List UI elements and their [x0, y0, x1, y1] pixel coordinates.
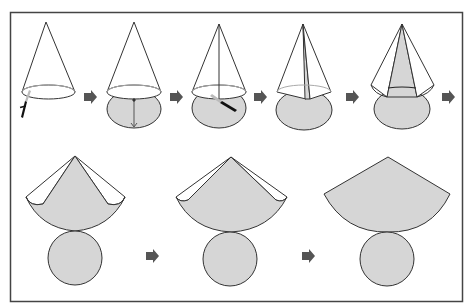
- arrow-icon: [146, 249, 159, 263]
- step-1-cone: [22, 22, 75, 99]
- step-6-net: [26, 156, 125, 285]
- step-2-cone: [107, 22, 161, 128]
- arrow-icon: [346, 90, 359, 104]
- step-8-net: [324, 157, 450, 286]
- arrow-icon: [84, 90, 97, 104]
- arrow-icon: [254, 90, 267, 104]
- step-7-net: [176, 157, 287, 286]
- step-4-cone: [276, 24, 332, 130]
- arrow-icon: [170, 90, 183, 104]
- knife-icon: [20, 90, 31, 118]
- step-5-cone: [371, 24, 434, 129]
- step-3-cone: [192, 24, 246, 128]
- arrow-icon: [442, 90, 455, 104]
- cone-net-diagram: [0, 0, 469, 308]
- arrow-icon: [302, 249, 315, 263]
